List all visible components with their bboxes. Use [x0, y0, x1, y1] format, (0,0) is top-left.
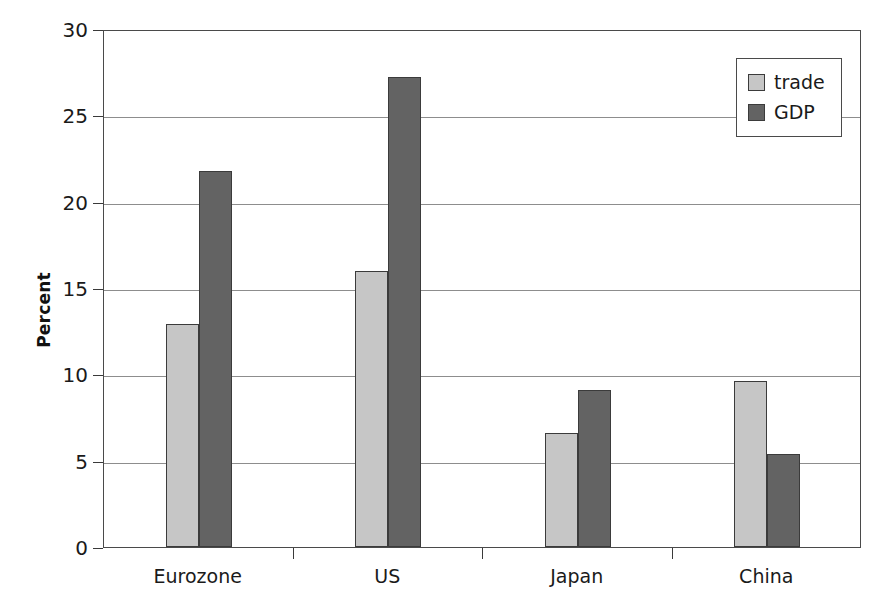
legend-label-trade: trade	[774, 73, 825, 92]
bar-japan-trade	[545, 433, 578, 547]
x-axis-label-eurozone: Eurozone	[118, 565, 278, 587]
x-axis-label-us: US	[307, 565, 467, 587]
legend-swatch-trade-icon	[748, 74, 765, 91]
y-axis-tick-label: 10	[42, 365, 88, 385]
legend: trade GDP	[736, 58, 842, 137]
y-axis-tick-mark	[93, 116, 103, 117]
legend-label-gdp: GDP	[774, 103, 815, 122]
x-axis-label-china: China	[686, 565, 846, 587]
y-axis-tick-label: 0	[42, 538, 88, 558]
x-axis-label-japan: Japan	[497, 565, 657, 587]
y-axis-tick-mark	[93, 289, 103, 290]
y-axis-tick-mark	[93, 203, 103, 204]
legend-item-gdp: GDP	[748, 97, 841, 127]
bar-us-gdp	[388, 77, 421, 547]
x-axis-tick-mark	[293, 548, 294, 559]
y-axis-tick-label: 15	[42, 279, 88, 299]
y-axis-tick-mark	[93, 375, 103, 376]
y-axis-tick-label: 5	[42, 452, 88, 472]
bar-us-trade	[355, 271, 388, 547]
bar-eurozone-gdp	[199, 171, 232, 547]
y-axis-tick-label: 30	[42, 20, 88, 40]
legend-item-trade: trade	[748, 67, 841, 97]
y-axis-tick-labels: 051015202530	[36, 0, 88, 601]
x-axis-tick-mark	[482, 548, 483, 559]
bar-china-trade	[734, 381, 767, 547]
bar-china-gdp	[767, 454, 800, 547]
y-axis-tick-mark	[93, 462, 103, 463]
y-axis-tick-mark	[93, 548, 103, 549]
y-axis-tick-label: 25	[42, 106, 88, 126]
bar-chart: Percent 051015202530 EurozoneUSJapanChin…	[0, 0, 887, 601]
legend-swatch-gdp-icon	[748, 104, 765, 121]
y-axis-tick-label: 20	[42, 193, 88, 213]
bar-eurozone-trade	[166, 324, 199, 547]
y-axis-tick-mark	[93, 30, 103, 31]
x-axis-tick-mark	[672, 548, 673, 559]
bar-japan-gdp	[578, 390, 611, 547]
